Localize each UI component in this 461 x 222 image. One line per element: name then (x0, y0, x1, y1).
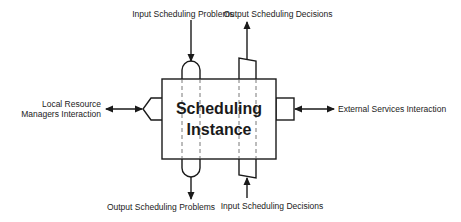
label-input-scheduling-decisions: Input Scheduling Decisions (221, 201, 324, 211)
scheduling-instance-diagram: Scheduling Instance Input Scheduling Pro… (0, 0, 461, 222)
component-title-line1: Scheduling (176, 100, 262, 117)
label-local-resource-line1: Local Resource (42, 99, 101, 109)
scheduling-instance-box (162, 79, 276, 159)
label-output-scheduling-decisions: Output Scheduling Decisions (223, 9, 332, 19)
external-port-rect (276, 98, 294, 120)
local-port-chevron (143, 98, 162, 120)
label-input-scheduling-problems: Input Scheduling Problems (132, 9, 234, 19)
label-output-scheduling-problems: Output Scheduling Problems (107, 202, 215, 212)
label-external-services: External Services Interaction (338, 104, 446, 114)
label-local-resource-line2: Managers Interaction (21, 109, 101, 119)
component-title-line2: Instance (187, 121, 252, 138)
